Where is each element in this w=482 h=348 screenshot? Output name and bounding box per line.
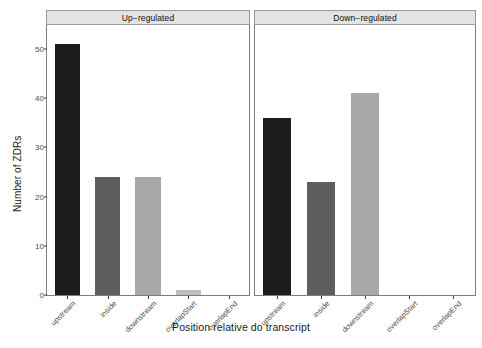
y-tick-mark <box>44 295 47 296</box>
plot-area-up <box>47 25 249 295</box>
x-tick-mark <box>409 296 410 299</box>
bar-chart: Number of ZDRs 01020304050 Up−regulated … <box>0 0 482 348</box>
x-tick-mark <box>229 296 230 299</box>
x-tick-mark <box>453 296 454 299</box>
x-axis-title: Position relative do transcript <box>0 321 482 333</box>
bar <box>351 93 378 295</box>
x-tick-mark <box>108 296 109 299</box>
facet-strip-label-down: Down−regulated <box>254 10 476 25</box>
x-tick-label: inside <box>311 299 331 319</box>
y-tick-label: 50 <box>35 44 44 53</box>
x-tick-mark <box>188 296 189 299</box>
y-tick-label: 30 <box>35 143 44 152</box>
y-tick-label: 10 <box>35 241 44 250</box>
bar <box>307 182 334 295</box>
y-tick-label: 40 <box>35 94 44 103</box>
x-tick-mark <box>148 296 149 299</box>
plot-area-down <box>255 25 475 295</box>
y-tick-mark <box>44 147 47 148</box>
bar-series-up <box>47 25 249 295</box>
x-tick-label: inside <box>98 299 118 319</box>
bar-series-down <box>255 25 475 295</box>
plot-panel-up <box>46 25 250 296</box>
bar <box>55 44 80 295</box>
facet-panel-down-regulated: Down−regulated <box>254 10 476 296</box>
y-tick-mark <box>44 245 47 246</box>
x-tick-mark <box>67 296 68 299</box>
plot-panel-down <box>254 25 476 296</box>
x-tick-mark <box>277 296 278 299</box>
bar <box>95 177 120 295</box>
bar <box>263 118 290 295</box>
bar <box>176 290 201 295</box>
y-tick-mark <box>44 48 47 49</box>
y-tick-label: 20 <box>35 192 44 201</box>
facet-strip-label-up: Up−regulated <box>46 10 250 25</box>
x-tick-mark <box>365 296 366 299</box>
y-tick-mark <box>44 196 47 197</box>
bar <box>135 177 160 295</box>
y-axis-tick-labels: 01020304050 <box>26 0 44 348</box>
y-tick-mark <box>44 98 47 99</box>
facet-panel-up-regulated: Up−regulated <box>46 10 250 296</box>
y-axis-title: Number of ZDRs <box>8 0 26 348</box>
x-tick-mark <box>321 296 322 299</box>
